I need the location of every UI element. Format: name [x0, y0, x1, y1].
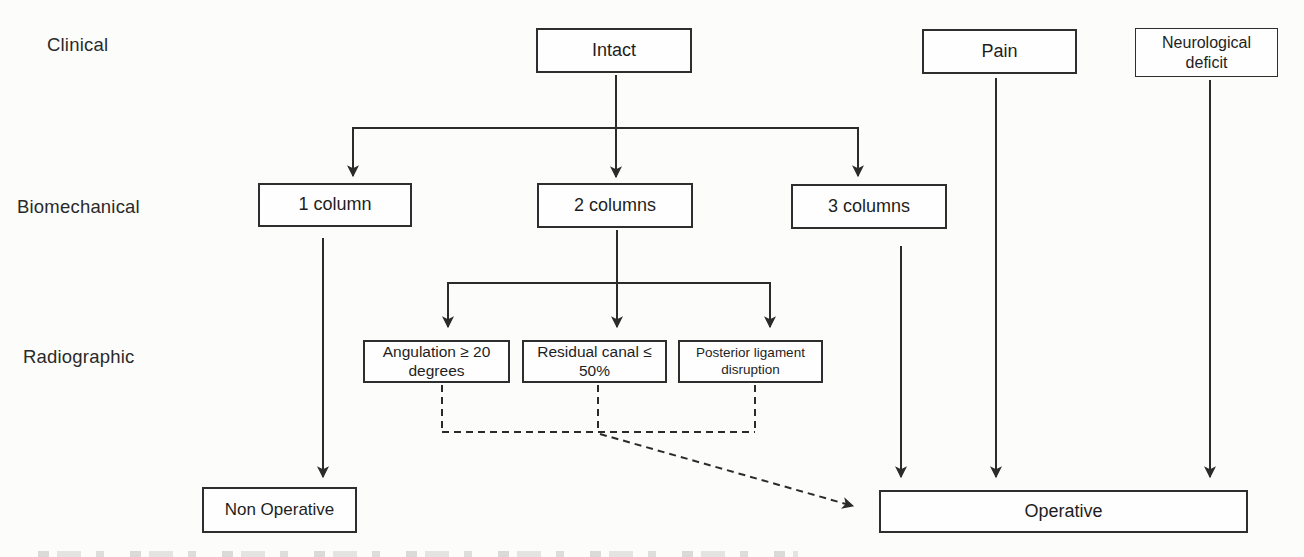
node-1-column: 1 column	[258, 183, 412, 227]
row-label-clinical: Clinical	[47, 34, 108, 56]
treatment-algorithm-flowchart: Clinical Biomechanical Radiographic Inta…	[0, 0, 1304, 557]
row-label-radiographic: Radiographic	[23, 346, 134, 368]
node-2-columns: 2 columns	[537, 183, 693, 228]
connector-lines-layer	[0, 0, 1304, 557]
node-non-operative: Non Operative	[202, 487, 357, 533]
node-intact: Intact	[536, 28, 692, 73]
node-pain: Pain	[922, 29, 1077, 74]
dashed-arrow-to-operative	[600, 434, 853, 506]
node-residual-canal: Residual canal ≤ 50%	[522, 340, 667, 383]
node-operative: Operative	[879, 490, 1248, 533]
node-posterior-ligament: Posterior ligament disruption	[678, 340, 823, 383]
row-label-biomechanical: Biomechanical	[17, 196, 140, 218]
node-neurological-deficit: Neurological deficit	[1135, 28, 1278, 77]
node-3-columns: 3 columns	[791, 184, 947, 229]
node-angulation: Angulation ≥ 20 degrees	[363, 340, 510, 383]
cropped-caption-fragment	[38, 551, 798, 557]
